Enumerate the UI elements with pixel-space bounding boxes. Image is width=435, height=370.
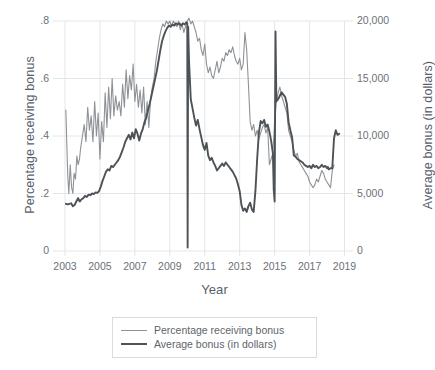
legend-item-2: Average bonus (in dollars)	[121, 337, 308, 351]
legend-swatch-icon	[121, 343, 147, 345]
legend-label: Average bonus (in dollars)	[154, 338, 276, 350]
tick-marks	[53, 21, 353, 256]
legend-item-1: Percentage receiving bonus	[121, 323, 308, 337]
series-lines	[66, 18, 339, 247]
series-line-2	[66, 22, 339, 247]
chart-legend: Percentage receiving bonusAverage bonus …	[112, 317, 317, 358]
series-line-1	[66, 18, 334, 193]
legend-label: Percentage receiving bonus	[154, 324, 284, 336]
legend-swatch-icon	[121, 330, 147, 331]
